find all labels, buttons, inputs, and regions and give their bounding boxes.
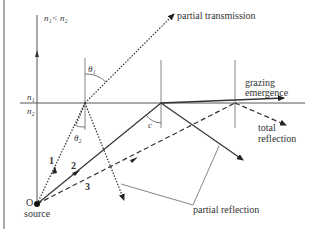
ray-2-grazing: [161, 98, 284, 103]
source-label: source: [24, 208, 51, 219]
source-point: [34, 201, 40, 207]
partial-reflection-label: partial reflection: [193, 204, 259, 215]
ray-3-arrow-icon: [130, 157, 138, 163]
refraction-diagram: n₁< n₂ n₁ n₂ θ₁ θ₂ c 1 2 3 O source part…: [0, 0, 310, 229]
ray-2-label: 2: [71, 160, 76, 171]
ray-1-label: 1: [49, 155, 54, 166]
ray-1-incident: [37, 103, 85, 204]
medium-lower-label: n₂: [27, 106, 35, 116]
medium-upper-label: n₁: [27, 92, 35, 102]
total-reflection-label-1: total: [258, 122, 276, 133]
ray-1-reflected: [85, 103, 124, 200]
partial-reflection-leader: [121, 146, 219, 205]
ray-2-incident: [37, 103, 161, 204]
ray-3-label: 3: [85, 181, 90, 192]
ray-1-reflected-left: [76, 103, 85, 125]
partial-transmission-label: partial transmission: [177, 10, 256, 21]
axis-arrow-icon: [35, 50, 39, 57]
total-reflection-label-2: reflection: [258, 133, 296, 144]
condition-label: n₁< n₂: [44, 13, 68, 23]
angle-theta2-arc: [74, 125, 85, 127]
theta2-label: θ₂: [74, 133, 82, 143]
ray-2-reflected: [161, 103, 243, 160]
critical-angle-label: c: [148, 120, 152, 130]
grazing-label-2: emergence: [245, 87, 289, 98]
theta1-label: θ₁: [88, 64, 96, 74]
source-marker-label: O: [26, 197, 33, 208]
angle-theta1-arc: [85, 74, 106, 82]
ray-3-incident: [37, 103, 235, 204]
